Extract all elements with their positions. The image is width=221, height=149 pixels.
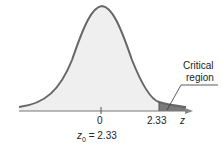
critical-region-label-line2: region: [186, 73, 214, 83]
axis-arrow-icon: [185, 108, 193, 114]
critical-region-label-line1: Critical: [183, 61, 214, 71]
z0-value: = 2.33: [89, 130, 117, 141]
tick-label-zero: 0: [97, 116, 103, 126]
z0-annotation: z0 = 2.33: [77, 131, 117, 143]
curve-fill: [19, 6, 159, 111]
z0-subscript: 0: [82, 136, 86, 143]
axis-variable-label: z: [180, 116, 185, 126]
tick-label-critical: 2.33: [147, 116, 166, 126]
